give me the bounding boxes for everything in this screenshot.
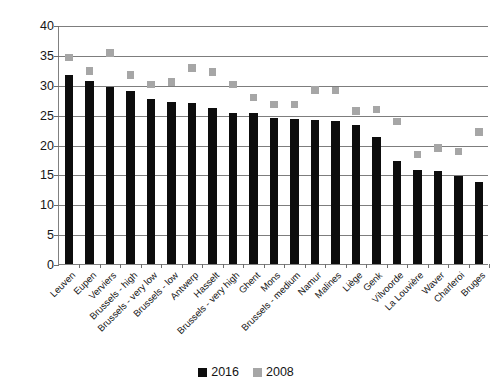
y-axis-tick-mark xyxy=(54,265,59,266)
legend-item: 2016 xyxy=(198,366,239,379)
data-marker xyxy=(455,148,463,156)
data-marker xyxy=(352,107,360,115)
data-marker xyxy=(373,106,381,114)
y-axis-tick-mark xyxy=(54,175,59,176)
data-marker xyxy=(393,118,401,126)
data-marker xyxy=(229,81,237,89)
data-marker xyxy=(106,49,114,57)
legend-item: 2008 xyxy=(253,366,294,379)
y-axis-tick-label: 30 xyxy=(24,80,54,92)
bar xyxy=(249,113,258,264)
bar xyxy=(147,99,156,264)
bar xyxy=(126,91,135,264)
data-marker xyxy=(475,128,483,136)
y-axis-tick-mark xyxy=(54,116,59,117)
data-marker xyxy=(311,86,319,94)
data-marker xyxy=(65,54,73,62)
data-marker xyxy=(86,67,94,75)
y-axis-tick-mark xyxy=(54,235,59,236)
data-marker xyxy=(188,64,196,72)
bar xyxy=(311,120,320,264)
legend-label: 2008 xyxy=(266,366,294,379)
y-axis-tick-label: 15 xyxy=(24,169,54,181)
gridline xyxy=(59,116,488,117)
legend-swatch-icon xyxy=(253,368,262,377)
chart-container: Percentage points 0510152025303540 Leuve… xyxy=(0,0,492,391)
y-axis-tick-mark xyxy=(54,205,59,206)
data-marker xyxy=(414,151,422,159)
legend-swatch-icon xyxy=(198,368,207,377)
data-marker xyxy=(291,101,299,109)
data-marker xyxy=(250,94,258,102)
y-axis-tick-label: 10 xyxy=(24,199,54,211)
y-axis-tick-mark xyxy=(54,56,59,57)
bar xyxy=(393,161,402,264)
bar xyxy=(85,81,94,264)
chart-legend: 20162008 xyxy=(0,362,492,382)
y-axis-tick-mark xyxy=(54,26,59,27)
data-marker xyxy=(209,68,217,76)
data-marker xyxy=(127,71,135,79)
gridline xyxy=(59,56,488,57)
bar xyxy=(352,125,361,264)
bar xyxy=(106,87,115,264)
bar xyxy=(65,75,74,264)
gridline xyxy=(59,86,488,87)
x-axis-tick-labels: LeuvenEupenVerviersBrussels - highBrusse… xyxy=(0,268,492,360)
gridline xyxy=(59,26,488,27)
data-marker xyxy=(270,101,278,109)
y-axis-tick-label: 25 xyxy=(24,110,54,122)
y-axis-tick-mark xyxy=(54,86,59,87)
y-axis-tick-label: 35 xyxy=(24,50,54,62)
x-axis-tick-label: Leuven xyxy=(48,268,79,299)
y-axis-tick-label: 5 xyxy=(24,229,54,241)
data-marker xyxy=(434,144,442,152)
y-axis-tick-label: 40 xyxy=(24,20,54,32)
y-axis-tick-label: 20 xyxy=(24,140,54,152)
bar xyxy=(290,119,299,264)
y-axis-tick-mark xyxy=(54,146,59,147)
data-marker xyxy=(147,81,155,89)
data-marker xyxy=(332,87,340,95)
bar xyxy=(229,113,238,264)
data-marker xyxy=(168,78,176,86)
bar xyxy=(372,137,381,264)
legend-label: 2016 xyxy=(211,366,239,379)
